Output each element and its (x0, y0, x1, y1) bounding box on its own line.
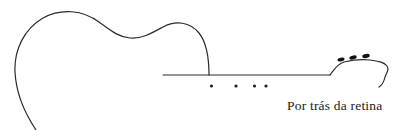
figure-canvas: Por trás da retina (0, 0, 409, 130)
fret-marker-dot (234, 84, 237, 87)
fret-marker-dot (210, 84, 213, 87)
fret-marker-dot (253, 84, 256, 87)
figure-caption: Por trás da retina (287, 98, 382, 114)
fret-marker-dot (264, 84, 267, 87)
